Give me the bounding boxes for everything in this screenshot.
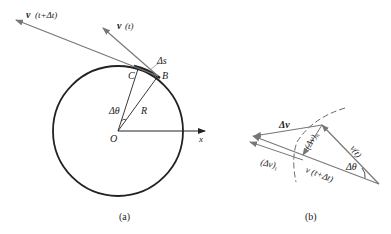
label-v-t-dt-arg: (t+Δt) <box>35 10 57 20</box>
label-point-c: C <box>128 70 135 81</box>
label-delta-theta: Δθ <box>345 161 357 172</box>
label-delta-v-n: (Δv)n <box>302 130 321 151</box>
figure-a: v (t+Δt) v (t) Δs C B Δθ R O x (a) <box>16 9 205 223</box>
label-point-b: B <box>162 70 168 81</box>
label-radius: R <box>140 105 147 116</box>
label-x-axis: x <box>198 134 203 144</box>
vector-v-t-dt <box>16 20 158 76</box>
label-v-t-arg: (t) <box>125 21 134 31</box>
kinematics-figure: v (t+Δt) v (t) Δs C B Δθ R O x (a) Δv (Δ… <box>0 0 391 234</box>
label-delta-v-t: (Δv)t <box>259 157 278 171</box>
label-delta-v: Δv <box>278 119 290 130</box>
caption-b: (b) <box>305 211 317 223</box>
label-v-t: v <box>117 20 122 31</box>
label-origin: O <box>110 133 117 144</box>
label-v-t: v(t) <box>348 143 363 159</box>
label-v-t-dt: v (t+Δt) <box>304 165 334 185</box>
label-delta-s: Δs <box>156 55 167 66</box>
vector-v-t <box>103 28 158 76</box>
label-v-t-dt: v <box>26 9 31 20</box>
caption-a: (a) <box>119 211 130 223</box>
radius-ob <box>118 76 158 131</box>
label-delta-theta: Δθ <box>108 105 120 116</box>
figure-b: Δv (Δv)n (Δv)t v(t) v (t+Δt) Δθ (b) <box>250 108 379 223</box>
